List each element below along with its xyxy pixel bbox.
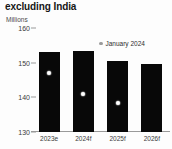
bar: [39, 52, 60, 132]
chart-container: excluding India Millions January 2024 13…: [0, 0, 172, 149]
data-point-marker: [81, 92, 85, 96]
bar: [141, 64, 162, 132]
y-axis-tick-mark: [31, 132, 36, 133]
plot-area: 1301401501602023e2024f2025f2026f: [33, 28, 170, 132]
y-axis-tick-mark: [31, 62, 36, 63]
y-axis-tick-mark: [31, 97, 36, 98]
x-axis-tick-label: 2025f: [109, 135, 125, 142]
y-axis-tick-label: 130: [18, 129, 30, 136]
y-axis-tick-mark: [31, 28, 36, 29]
y-axis-tick-label: 160: [18, 25, 30, 32]
axis-units-label: Millions: [6, 16, 28, 23]
x-axis-tick-label: 2023e: [40, 135, 58, 142]
chart-title: excluding India: [5, 1, 76, 12]
y-axis-tick-label: 150: [18, 59, 30, 66]
x-axis-tick-label: 2026f: [144, 135, 160, 142]
data-point-marker: [116, 101, 120, 105]
data-point-marker: [47, 71, 51, 75]
y-axis-tick-label: 140: [18, 94, 30, 101]
x-axis-tick-label: 2024f: [75, 135, 91, 142]
bar: [107, 61, 128, 132]
